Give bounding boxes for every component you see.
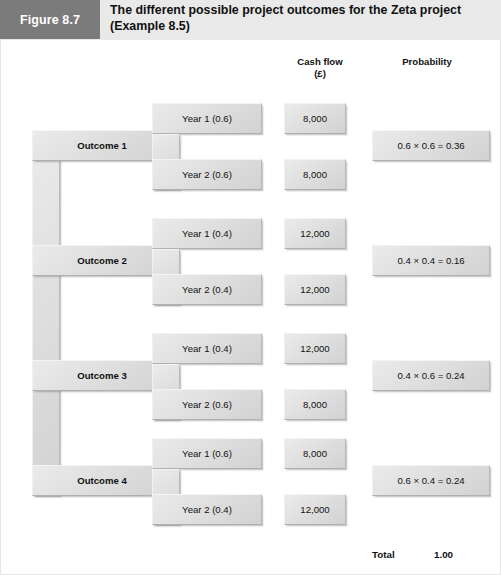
year2-label-2: Year 2 (0.4) bbox=[152, 284, 262, 295]
cash-flow-value-2-year1: 12,000 bbox=[284, 228, 346, 239]
total-label: Total bbox=[372, 549, 395, 560]
year2-label-3: Year 2 (0.6) bbox=[152, 399, 262, 410]
cash-flow-value-3-year1: 12,000 bbox=[284, 343, 346, 354]
year1-label-1: Year 1 (0.6) bbox=[152, 113, 262, 124]
outcome-label-4: Outcome 4 bbox=[32, 475, 172, 486]
column-header-cash-flow: Cash flow (£) bbox=[281, 56, 359, 80]
cash-flow-value-3-year2: 8,000 bbox=[284, 399, 346, 410]
probability-value-2: 0.4 × 0.4 = 0.16 bbox=[372, 255, 490, 266]
cash-flow-value-4-year2: 12,000 bbox=[284, 504, 346, 515]
cash-flow-value-1-year1: 8,000 bbox=[284, 113, 346, 124]
total-value: 1.00 bbox=[434, 549, 453, 560]
column-header-probability: Probability bbox=[372, 56, 482, 68]
outcome-label-2: Outcome 2 bbox=[32, 255, 172, 266]
figure-number-text: Figure 8.7 bbox=[20, 13, 80, 27]
figure-title-bar: Figure 8.7 The different possible projec… bbox=[0, 0, 501, 40]
year1-label-2: Year 1 (0.4) bbox=[152, 228, 262, 239]
year2-label-1: Year 2 (0.6) bbox=[152, 169, 262, 180]
year2-label-4: Year 2 (0.4) bbox=[152, 504, 262, 515]
probability-value-3: 0.4 × 0.6 = 0.24 bbox=[372, 370, 490, 381]
tree-trunk bbox=[32, 130, 60, 496]
cash-flow-value-2-year2: 12,000 bbox=[284, 284, 346, 295]
figure-container: Figure 8.7 The different possible projec… bbox=[0, 0, 501, 575]
column-header-cash-flow-line-1: Cash flow bbox=[281, 56, 359, 68]
probability-value-1: 0.6 × 0.6 = 0.36 bbox=[372, 140, 490, 151]
cash-flow-value-1-year2: 8,000 bbox=[284, 169, 346, 180]
cash-flow-value-4-year1: 8,000 bbox=[284, 448, 346, 459]
figure-number-badge: Figure 8.7 bbox=[0, 0, 100, 39]
figure-title-line-2: (Example 8.5) bbox=[110, 19, 490, 35]
outcome-label-3: Outcome 3 bbox=[32, 370, 172, 381]
year1-label-4: Year 1 (0.6) bbox=[152, 448, 262, 459]
column-header-cash-flow-line-2: (£) bbox=[281, 68, 359, 80]
outcome-label-1: Outcome 1 bbox=[32, 140, 172, 151]
figure-title-line-1: The different possible project outcomes … bbox=[110, 3, 490, 19]
year1-label-3: Year 1 (0.4) bbox=[152, 343, 262, 354]
figure-title: The different possible project outcomes … bbox=[110, 3, 490, 34]
probability-value-4: 0.6 × 0.4 = 0.24 bbox=[372, 475, 490, 486]
